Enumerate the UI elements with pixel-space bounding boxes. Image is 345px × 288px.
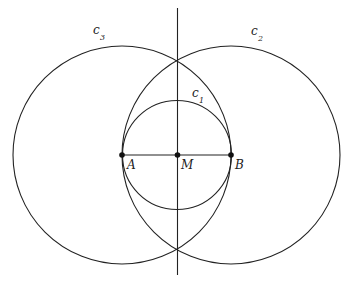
construction-diagram: A M B c 3 c 2 c 1 (0, 0, 345, 288)
label-b: B (234, 158, 244, 172)
point-a (119, 152, 125, 158)
point-m (175, 152, 181, 158)
label-c3: c (93, 23, 100, 37)
label-m: M (180, 158, 194, 172)
label-c3-subscript: 3 (100, 33, 105, 42)
label-a: A (126, 158, 136, 172)
point-b (228, 152, 234, 158)
label-c1: c (192, 86, 199, 100)
label-c2-subscript: 2 (257, 34, 263, 43)
label-c2: c (251, 24, 258, 38)
label-c1-subscript: 1 (199, 96, 204, 105)
